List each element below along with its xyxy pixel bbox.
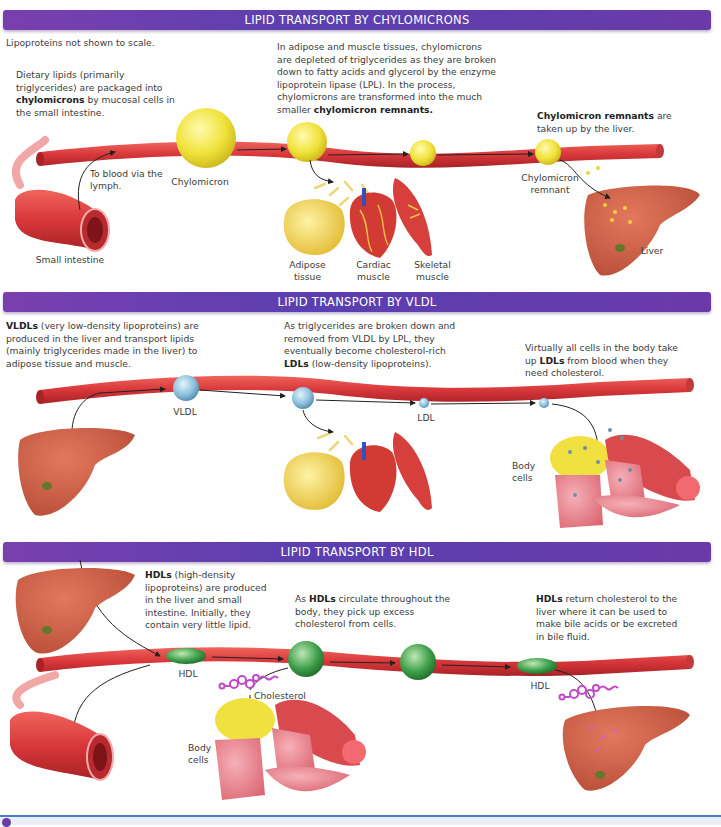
footer-bullet-icon — [2, 818, 11, 827]
ldl-icon — [419, 398, 429, 408]
small-intestine-icon — [10, 712, 100, 780]
small-intestine-label: Small intestine — [20, 254, 120, 266]
chylomicron-intro-text: Dietary lipids (primarily triglycerides)… — [16, 69, 186, 119]
hdl-return-text: HDLs return cholesterol to the liver whe… — [536, 593, 686, 643]
liver-icon — [18, 428, 135, 516]
cardiac-label: Cardiac muscle — [346, 259, 401, 283]
ldl-icon — [539, 398, 549, 408]
heart-icon — [350, 193, 397, 258]
to-blood-label: To blood via the lymph. — [90, 168, 170, 192]
hdl-right-label: HDL — [520, 680, 560, 692]
chylomicron-icon — [287, 122, 327, 162]
vldl-label: VLDL — [165, 406, 205, 418]
skeletal-muscle-icon — [393, 432, 432, 510]
cholesterol-icon — [220, 675, 279, 689]
heart-icon — [350, 445, 397, 512]
liver-icon — [563, 706, 690, 791]
body-cell-icon — [265, 767, 350, 792]
cholesterol-label: Cholesterol — [250, 690, 310, 702]
ldl-uptake-text: Virtually all cells in the body take up … — [525, 342, 685, 380]
scale-note: Lipoproteins not shown to scale. — [6, 37, 155, 50]
blood-vessel-icon — [40, 376, 690, 404]
ldl-formation-text: As triglycerides are broken down and rem… — [284, 320, 469, 370]
remnant-uptake-text: Chylomicron remnants are taken up by the… — [537, 110, 687, 135]
lpl-description-text: In adipose and muscle tissues, chylomicr… — [277, 41, 497, 117]
liver-icon — [16, 568, 135, 653]
hdl-intro-text: HDLs (high-density lipoproteins) are pro… — [145, 569, 270, 632]
cholesterol-icon — [560, 685, 619, 700]
body-cell-icon — [555, 475, 603, 528]
body-cell-icon — [215, 738, 265, 800]
body-cell-icon — [550, 436, 610, 480]
adipose-tissue-icon — [284, 452, 345, 510]
chylomicron-icon — [410, 140, 436, 166]
liver-label: Liver — [632, 245, 672, 257]
skeletal-label: Skeletal muscle — [405, 259, 460, 283]
hdl-icon — [517, 658, 557, 674]
hdl-icon — [400, 644, 436, 680]
vldl-icon — [173, 375, 199, 401]
blood-vessel-icon — [40, 647, 690, 676]
vldl-intro-text: VLDLs (very low-density lipoproteins) ar… — [6, 320, 206, 370]
remnant-label: Chylomicron remnant — [510, 172, 590, 196]
hdl-left-label: HDL — [168, 668, 208, 680]
hdl-icon — [166, 648, 206, 664]
adipose-label: Adipose tissue — [280, 259, 335, 283]
hdl-circulation-text: As HDLs circulate throughout the body, t… — [295, 593, 455, 631]
vldl-icon — [292, 387, 314, 409]
body-cells-label: Body cells — [188, 742, 218, 766]
adipose-tissue-icon — [284, 199, 345, 255]
ldl-label: LDL — [406, 412, 446, 424]
body-cell-icon — [592, 495, 680, 517]
footer-divider — [0, 815, 721, 825]
chylomicron-remnant-icon — [535, 139, 561, 165]
body-cells-label: Body cells — [512, 460, 542, 484]
body-cell-icon — [215, 698, 275, 742]
hdl-icon — [288, 641, 324, 677]
chylomicron-label: Chylomicron — [160, 176, 240, 188]
liver-icon — [584, 186, 700, 276]
